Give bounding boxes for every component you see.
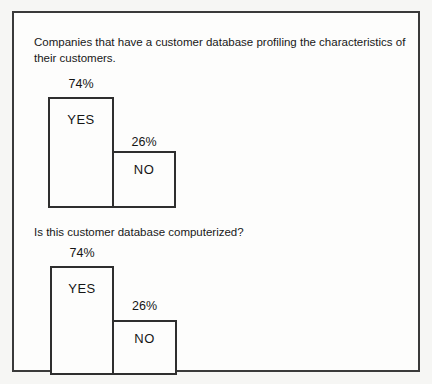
chart1-no-bar: NO — [112, 151, 176, 208]
chart1-no-value-label: 26% — [112, 135, 176, 149]
figure-frame: Companies that have a customer database … — [12, 11, 420, 372]
chart1-yes-bar-label: YES — [50, 112, 112, 127]
chart1-yes-bar: YES — [48, 97, 114, 208]
chart2-no-bar: NO — [112, 320, 177, 375]
chart2-no-value-label: 26% — [112, 299, 177, 313]
chart1-yes-value-label: 74% — [48, 77, 114, 91]
chart1-title: Companies that have a customer database … — [34, 35, 422, 66]
chart2-title: Is this customer database computerized? — [34, 225, 422, 241]
chart1-no-bar-label: NO — [114, 162, 174, 177]
chart2-yes-bar-label: YES — [52, 281, 112, 296]
chart2-yes-value-label: 74% — [50, 246, 114, 260]
chart2-yes-bar: YES — [50, 266, 114, 375]
page: Companies that have a customer database … — [0, 0, 432, 384]
chart2-no-bar-label: NO — [114, 331, 175, 346]
